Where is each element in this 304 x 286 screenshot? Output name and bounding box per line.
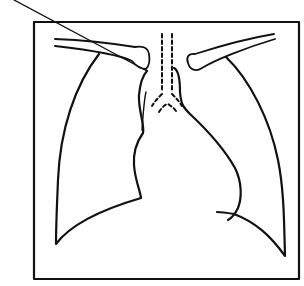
carina	[159, 104, 176, 112]
right-main-bronchus	[152, 94, 162, 106]
left-lung-outline	[226, 57, 285, 256]
left-heart-border	[174, 68, 241, 220]
right-clavicle	[55, 39, 149, 69]
left-clavicle	[187, 34, 275, 70]
left-hemidiaphragm	[217, 212, 234, 214]
right-mediastinal-border	[134, 71, 147, 198]
right-lung-outline	[56, 54, 141, 244]
chest-xray-diagram	[0, 0, 304, 286]
superior-vena-cava-line	[142, 92, 146, 130]
frame	[34, 22, 299, 279]
